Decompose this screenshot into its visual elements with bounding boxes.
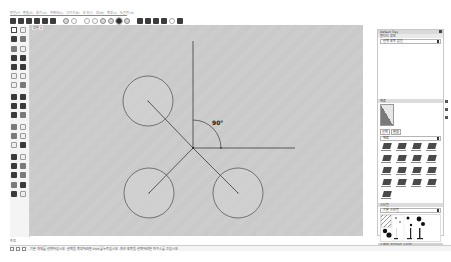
rotated-rect-tool-icon[interactable] (20, 55, 26, 61)
circle-tool-icon[interactable] (11, 64, 17, 70)
move-tool-icon[interactable] (11, 94, 17, 100)
push-pull-tool-icon[interactable] (20, 94, 26, 100)
position-camera-icon[interactable] (116, 18, 122, 24)
menu-extensions[interactable]: 확장(x) (107, 11, 117, 15)
material-thumb[interactable] (381, 191, 392, 201)
material-thumb[interactable] (381, 167, 392, 177)
materials-header[interactable]: 재료 (378, 99, 443, 103)
make-component-icon[interactable] (18, 18, 24, 24)
polygon-tool-icon[interactable] (20, 64, 26, 70)
rectangle-icon[interactable] (50, 18, 56, 24)
pie-tool-icon[interactable] (20, 73, 26, 79)
lasso-tool-icon[interactable] (20, 27, 26, 33)
dropdown-icon[interactable] (437, 209, 439, 212)
dropdown-icon[interactable] (437, 40, 439, 43)
menu-edit[interactable]: 편집(E) (23, 11, 33, 15)
prev-view-icon[interactable] (108, 18, 114, 24)
material-swatch[interactable] (380, 104, 394, 126)
line-icon[interactable] (42, 18, 48, 24)
material-thumb[interactable] (426, 155, 437, 165)
offset-tool-icon[interactable] (20, 112, 26, 118)
layout-icon[interactable] (153, 18, 159, 24)
walk-icon[interactable] (124, 18, 130, 24)
position-camera-tool-icon[interactable] (11, 182, 17, 188)
close-icon[interactable] (439, 30, 442, 33)
material-thumb[interactable] (426, 179, 437, 189)
print-icon[interactable] (161, 18, 167, 24)
select-icon[interactable] (10, 18, 16, 24)
tape-measure-tool-icon[interactable] (11, 124, 17, 130)
section-plane-tool-icon[interactable] (20, 172, 26, 178)
2pt-arc-tool-icon[interactable] (11, 82, 17, 88)
line-tool-icon[interactable] (11, 46, 17, 52)
material-thumb[interactable] (426, 143, 437, 153)
materials-category-select[interactable]: 재료 (380, 136, 441, 141)
menu-camera[interactable]: 카메라(C) (50, 11, 63, 15)
detail-icon[interactable] (445, 108, 448, 111)
material-thumb[interactable] (396, 143, 407, 153)
material-thumb[interactable] (426, 167, 437, 177)
freehand-tool-icon[interactable] (20, 46, 26, 52)
material-thumb[interactable] (381, 143, 392, 153)
material-thumb[interactable] (411, 167, 422, 177)
3pt-arc-tool-icon[interactable] (20, 82, 26, 88)
material-thumb[interactable] (411, 179, 422, 189)
credits-icon[interactable] (16, 247, 20, 251)
home-icon[interactable] (169, 18, 175, 24)
zoom-window-tool-icon[interactable] (20, 163, 26, 169)
user-icon[interactable] (22, 247, 26, 251)
select-tool-icon[interactable] (11, 27, 17, 33)
material-thumb[interactable] (381, 155, 392, 165)
zoom-window-icon[interactable] (92, 18, 98, 24)
3d-warehouse-icon[interactable] (137, 18, 143, 24)
material-thumb[interactable] (396, 179, 407, 189)
zoom-icon[interactable] (84, 18, 90, 24)
zoom-tool-icon[interactable] (11, 163, 17, 169)
zoom-extents-icon[interactable] (100, 18, 106, 24)
menu-tools[interactable]: 도구(T) (83, 11, 93, 15)
entity-info-header[interactable]: 엔티티 정보 (378, 34, 443, 38)
material-thumb[interactable] (411, 155, 422, 165)
menu-file[interactable]: 파일(F) (10, 11, 20, 15)
menu-view[interactable]: 보기(V) (36, 11, 46, 15)
extension-warehouse-icon[interactable] (145, 18, 151, 24)
material-thumb[interactable] (411, 143, 422, 153)
tab-edit[interactable]: 편집 (391, 129, 401, 135)
pan-icon[interactable] (71, 18, 77, 24)
material-thumb[interactable] (381, 179, 392, 189)
text-tool-icon[interactable] (20, 133, 26, 139)
sample-icon[interactable] (445, 116, 448, 119)
material-thumb[interactable] (396, 155, 407, 165)
arc-tool-icon[interactable] (11, 73, 17, 79)
look-around-tool-icon[interactable] (11, 191, 17, 197)
menu-draw[interactable]: 그리기(R) (66, 11, 79, 15)
walk-tool-icon[interactable] (20, 182, 26, 188)
dimension-tool-icon[interactable] (20, 124, 26, 130)
styles-icon[interactable] (177, 18, 183, 24)
menu-help[interactable]: 도움말(H) (120, 11, 134, 15)
tab-select[interactable]: 선택 (380, 129, 390, 135)
sandbox-tool-icon[interactable] (20, 191, 26, 197)
scale-tool-icon[interactable] (11, 112, 17, 118)
rotate-tool-icon[interactable] (11, 103, 17, 109)
orbit-tool-icon[interactable] (11, 154, 17, 160)
drawing-canvas[interactable]: 장면 1 90° (30, 25, 363, 236)
menu-window[interactable]: 창(W) (96, 11, 104, 15)
orbit-icon[interactable] (63, 18, 69, 24)
protractor-tool-icon[interactable] (11, 133, 17, 139)
paint-bucket-icon[interactable] (34, 18, 40, 24)
styles-header[interactable]: 스타일 (378, 203, 443, 207)
follow-me-tool-icon[interactable] (20, 103, 26, 109)
material-thumb[interactable] (396, 167, 407, 177)
3d-text-tool-icon[interactable] (20, 142, 26, 148)
rectangle-tool-icon[interactable] (11, 55, 17, 61)
zoom-extents-tool-icon[interactable] (11, 172, 17, 178)
styles-category-select[interactable]: 기본 스타일 (380, 208, 441, 213)
dropdown-icon[interactable] (437, 137, 439, 140)
geo-location-icon[interactable] (10, 247, 14, 251)
axes-tool-icon[interactable] (11, 142, 17, 148)
pin-icon[interactable] (445, 100, 448, 103)
component-tool-icon[interactable] (11, 36, 17, 42)
eraser-icon[interactable] (26, 18, 32, 24)
paint-tool-icon[interactable] (20, 36, 26, 42)
